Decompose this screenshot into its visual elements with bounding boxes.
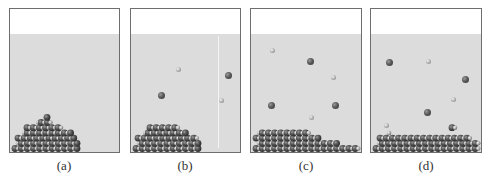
beaker-a [9,8,120,153]
panel-label-c: (c) [286,158,326,174]
large-ion [386,59,393,66]
large-ion [424,109,431,116]
beaker-d [370,8,482,153]
small-ion [270,48,275,53]
beaker-c [250,8,362,153]
beaker-b [130,8,241,153]
large-ion [307,58,314,65]
panel-label-a: (a) [44,158,84,174]
panel-label-b: (b) [165,158,205,174]
small-ion [309,115,314,120]
small-ion [219,98,224,103]
small-ion [384,123,389,128]
small-ion [176,67,181,72]
crystal-pile-b [131,112,240,152]
large-ion [225,72,232,79]
crystal-pile-c [251,112,361,152]
large-ion [268,102,275,109]
small-ion [426,59,431,64]
small-ion [451,97,456,102]
crystal-pile-a [10,112,119,152]
small-ion [331,75,336,80]
large-ion [332,102,339,109]
crystal-pile-d [371,112,481,152]
panel-label-d: (d) [406,158,446,174]
large-ion [462,76,469,83]
large-ion [158,92,165,99]
